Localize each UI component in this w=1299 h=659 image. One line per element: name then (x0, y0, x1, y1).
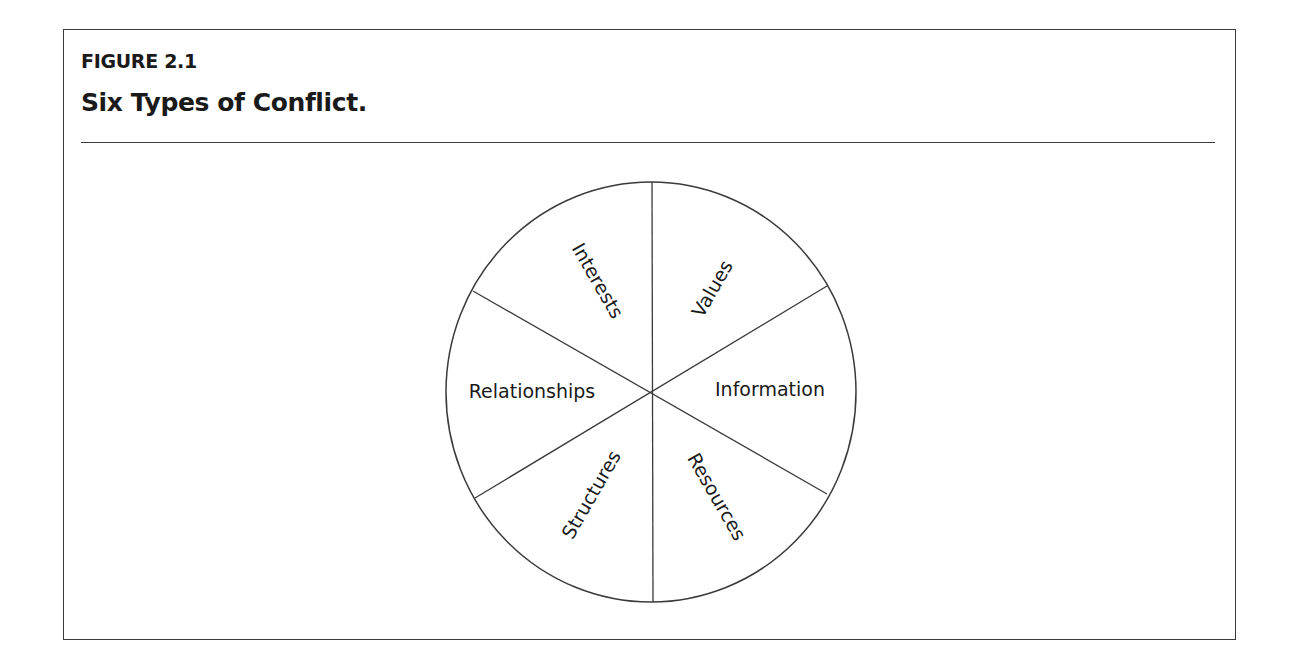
segment-relationships: Relationships (469, 380, 596, 402)
segment-information: Information (715, 378, 825, 400)
segment-interests: Interests (568, 239, 629, 322)
segment-resources: Resources (683, 449, 751, 544)
conflict-wheel: Interests Values Information Resources S… (0, 0, 1299, 659)
segment-structures: Structures (557, 446, 625, 542)
segment-values: Values (687, 256, 737, 321)
